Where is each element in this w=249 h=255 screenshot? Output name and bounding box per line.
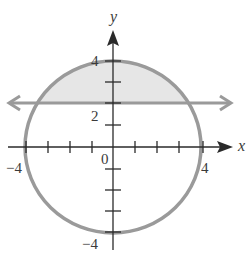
tick-label-x-neg4: −4 (6, 160, 22, 176)
graph: y x 4 2 0 −4 4 −4 (0, 0, 249, 255)
tick-label-y-4: 4 (91, 53, 99, 69)
x-axis (8, 141, 222, 153)
tick-label-x-4: 4 (201, 160, 209, 176)
tick-label-origin: 0 (101, 151, 109, 167)
y-axis-label: y (108, 8, 118, 26)
tick-label-y-2: 2 (91, 108, 99, 124)
x-axis-label: x (237, 137, 245, 154)
tick-label-y-neg4: −4 (82, 236, 98, 252)
